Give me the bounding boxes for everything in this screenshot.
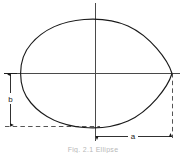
figure-container: b a Fig. 2.1 Ellipse [0, 0, 186, 153]
ovoid-diagram-svg: b a Fig. 2.1 Ellipse [0, 0, 186, 153]
a-dimension-label: a [131, 132, 136, 141]
b-dimension-label: b [8, 95, 13, 104]
figure-background [0, 0, 186, 153]
figure-caption: Fig. 2.1 Ellipse [68, 146, 119, 153]
